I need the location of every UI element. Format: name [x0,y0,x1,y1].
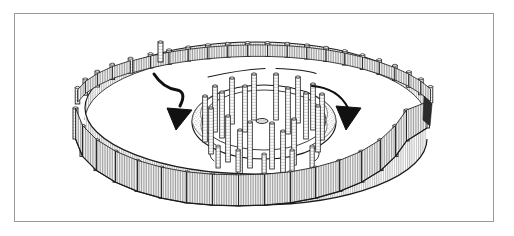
figure-root: Reconstruction drawing of a henge monume… [0,0,514,236]
henge-reconstruction-drawing [0,0,514,236]
central-feature-oval [256,119,268,124]
entrance-gate-post [158,41,163,62]
